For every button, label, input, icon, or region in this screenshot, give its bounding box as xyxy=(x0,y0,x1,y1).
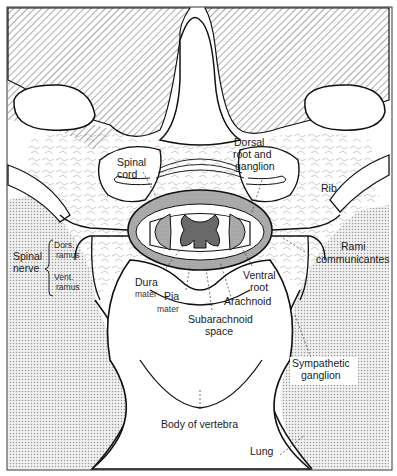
svg-text:ramus: ramus xyxy=(56,282,80,292)
svg-text:Pia: Pia xyxy=(164,290,179,302)
vertebral-body xyxy=(92,260,310,469)
svg-text:mater: mater xyxy=(157,304,179,314)
svg-text:Subarachnoid: Subarachnoid xyxy=(188,313,253,325)
svg-text:Sympathetic: Sympathetic xyxy=(292,357,350,369)
label-dura-mater: Dura mater xyxy=(135,276,158,299)
svg-text:root: root xyxy=(250,281,268,293)
rib-right-oval xyxy=(305,85,385,130)
svg-text:nerve: nerve xyxy=(13,262,39,274)
svg-text:Spinal: Spinal xyxy=(13,250,42,262)
svg-text:communicantes: communicantes xyxy=(316,253,390,265)
label-spinal-nerve: Spinal nerve xyxy=(13,250,42,274)
svg-text:Dorsal: Dorsal xyxy=(234,136,264,148)
svg-text:ganglion: ganglion xyxy=(235,160,275,172)
svg-text:cord: cord xyxy=(117,168,138,180)
svg-text:ganglion: ganglion xyxy=(301,369,341,381)
svg-text:ramus: ramus xyxy=(56,250,80,260)
svg-text:Rami: Rami xyxy=(341,240,366,252)
label-lung: Lung xyxy=(250,445,274,457)
label-body-of-vertebra: Body of vertebra xyxy=(161,418,238,430)
svg-text:Dura: Dura xyxy=(135,276,158,288)
svg-text:mater: mater xyxy=(135,289,157,299)
svg-text:Spinal: Spinal xyxy=(117,156,146,168)
svg-text:Dors.: Dors. xyxy=(54,240,74,250)
svg-text:root and: root and xyxy=(233,148,272,160)
spinal-cross-section-diagram: Spinal cord Dorsal root and ganglion Rib… xyxy=(0,0,397,476)
label-rib: Rib xyxy=(321,182,337,194)
label-sympathetic-ganglion: Sympathetic ganglion xyxy=(290,357,358,385)
label-arachnoid: Arachnoid xyxy=(224,295,271,307)
svg-text:Vent.: Vent. xyxy=(54,272,73,282)
svg-text:space: space xyxy=(205,325,233,337)
svg-text:Ventral: Ventral xyxy=(243,269,276,281)
